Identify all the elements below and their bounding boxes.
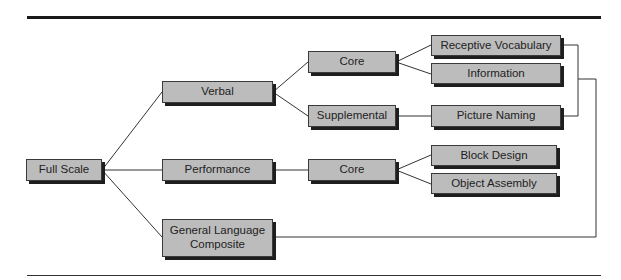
node-verbal-core: Core — [308, 51, 396, 73]
edge-fullscale-glc — [102, 170, 162, 237]
node-picture-naming: Picture Naming — [431, 105, 561, 127]
edge-core-block — [396, 155, 431, 170]
edge-core-information — [396, 62, 431, 74]
edge-core-receptive — [396, 45, 431, 62]
edge-verbal-supplemental — [273, 92, 308, 116]
bottom-rule — [27, 275, 601, 276]
bracket-receptive-picture — [561, 45, 578, 116]
node-receptive-vocabulary: Receptive Vocabulary — [431, 35, 561, 56]
node-object-assembly: Object Assembly — [431, 173, 557, 194]
edge-core-object — [396, 170, 431, 184]
node-verbal: Verbal — [162, 81, 273, 103]
node-block-design: Block Design — [431, 145, 557, 166]
node-full-scale: Full Scale — [26, 159, 102, 181]
node-performance: Performance — [162, 159, 273, 181]
node-general-language-composite: General Language Composite — [162, 219, 273, 257]
node-verbal-supplemental: Supplemental — [308, 105, 396, 127]
node-information: Information — [431, 63, 561, 84]
node-performance-core: Core — [308, 159, 396, 181]
edge-verbal-core — [273, 62, 308, 92]
edge-fullscale-verbal — [102, 92, 162, 170]
